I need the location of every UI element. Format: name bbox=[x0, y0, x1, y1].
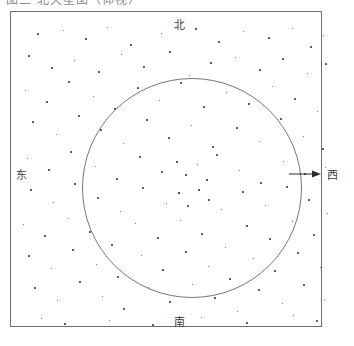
star-point bbox=[280, 118, 281, 119]
star-point bbox=[28, 255, 29, 256]
star-point bbox=[282, 303, 283, 304]
star-point bbox=[74, 60, 75, 61]
star-point bbox=[57, 300, 58, 301]
star-point bbox=[51, 268, 52, 269]
star-point bbox=[322, 148, 323, 149]
star-point bbox=[64, 323, 65, 324]
star-point bbox=[74, 183, 75, 184]
star-point bbox=[37, 33, 38, 34]
direction-label-west: 西 bbox=[327, 170, 338, 181]
star-point bbox=[123, 308, 124, 309]
star-point bbox=[303, 136, 304, 137]
star-point bbox=[237, 311, 238, 312]
star-point bbox=[274, 270, 275, 271]
star-point bbox=[27, 158, 28, 159]
star-point bbox=[323, 35, 324, 36]
direction-label-east: 东 bbox=[16, 170, 27, 181]
star-point bbox=[56, 134, 57, 135]
star-point bbox=[293, 315, 294, 316]
star-point bbox=[313, 234, 314, 235]
star-point bbox=[308, 199, 309, 200]
star-point bbox=[98, 71, 99, 72]
star-point bbox=[324, 299, 325, 300]
star-point bbox=[259, 69, 260, 70]
star-point bbox=[72, 249, 73, 250]
star-point bbox=[282, 58, 283, 59]
star-point bbox=[292, 28, 293, 29]
star-point bbox=[294, 98, 295, 99]
star-point bbox=[316, 320, 317, 321]
star-point bbox=[327, 213, 328, 214]
star-point bbox=[44, 235, 45, 236]
star-point bbox=[201, 317, 202, 318]
direction-label-south: 南 bbox=[174, 317, 185, 328]
star-point bbox=[25, 90, 26, 91]
star-point bbox=[117, 276, 118, 277]
star-point bbox=[152, 324, 153, 325]
star-point bbox=[268, 37, 269, 38]
west-direction-arrow bbox=[289, 168, 321, 180]
star-point bbox=[41, 318, 42, 319]
star-point bbox=[297, 252, 298, 253]
star-point bbox=[161, 33, 162, 34]
sky-map-frame bbox=[10, 11, 322, 327]
star-point bbox=[317, 111, 318, 112]
star-point bbox=[96, 264, 97, 265]
star-point bbox=[53, 202, 54, 203]
star-point bbox=[137, 87, 138, 88]
star-point bbox=[93, 96, 94, 97]
star-point bbox=[85, 38, 86, 39]
star-point bbox=[51, 67, 52, 68]
star-point bbox=[258, 289, 259, 290]
star-point bbox=[79, 281, 80, 282]
star-point bbox=[218, 41, 219, 42]
star-point bbox=[32, 121, 33, 122]
star-point bbox=[310, 46, 311, 47]
horizon-circle bbox=[82, 78, 302, 298]
star-point bbox=[195, 28, 197, 30]
star-chart: 北 南 东 西 bbox=[0, 0, 354, 346]
star-point bbox=[214, 297, 215, 298]
star-point bbox=[246, 322, 247, 323]
star-point bbox=[189, 75, 190, 76]
star-point bbox=[68, 218, 69, 219]
star-point bbox=[70, 151, 71, 152]
star-point bbox=[235, 57, 236, 58]
star-point bbox=[78, 115, 79, 116]
star-point bbox=[307, 73, 308, 74]
star-point bbox=[243, 31, 244, 32]
star-point bbox=[34, 287, 35, 288]
star-point bbox=[210, 62, 211, 63]
star-point bbox=[68, 81, 69, 82]
star-point bbox=[143, 66, 144, 67]
star-point bbox=[63, 30, 64, 31]
star-point bbox=[303, 284, 304, 285]
star-point bbox=[28, 55, 29, 56]
star-point bbox=[23, 224, 24, 225]
star-point bbox=[48, 169, 49, 170]
star-point bbox=[107, 27, 108, 28]
star-point bbox=[109, 320, 110, 321]
star-point bbox=[169, 301, 170, 302]
star-point bbox=[130, 44, 131, 45]
star-point bbox=[325, 167, 326, 168]
star-point bbox=[272, 86, 273, 87]
direction-label-north: 北 bbox=[174, 20, 185, 31]
star-point bbox=[169, 51, 170, 52]
star-point bbox=[325, 63, 326, 64]
star-point bbox=[121, 54, 122, 55]
star-point bbox=[102, 296, 103, 297]
star-point bbox=[46, 101, 47, 102]
star-point bbox=[320, 267, 321, 268]
star-point bbox=[30, 189, 31, 190]
